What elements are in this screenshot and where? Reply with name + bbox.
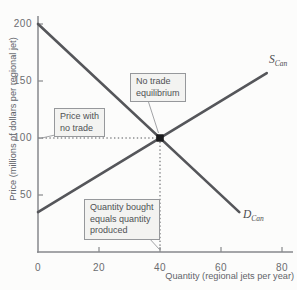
x-tick-label: 0 xyxy=(35,262,41,273)
y-tick-label: 50 xyxy=(2,189,32,200)
plot-canvas xyxy=(0,0,297,290)
demand-curve-subscript: Can xyxy=(251,214,264,223)
equilibrium-dot xyxy=(156,134,164,142)
x-tick-label: 80 xyxy=(276,262,288,273)
annotation-pointer-line xyxy=(40,135,56,139)
no-trade-equilibrium-chart: Price (millions of dollars per regional … xyxy=(0,0,297,290)
x-tick-label: 20 xyxy=(93,262,105,273)
x-tick-label: 60 xyxy=(215,262,227,273)
demand-curve-label: DCan xyxy=(243,209,264,223)
annotation-quantity-bought: Quantity bought equals quantity produced xyxy=(84,199,160,240)
supply-curve-subscript: Can xyxy=(275,59,288,68)
annotation-price-with-no-trade: Price with no trade xyxy=(54,108,105,137)
x-axis-title: Quantity (regional jets per year) xyxy=(165,271,294,281)
y-axis-title: Price (millions of dollars per regional … xyxy=(8,37,18,200)
annotation-no-trade-equilibrium: No trade equilibrium xyxy=(130,73,186,102)
x-tick-label: 40 xyxy=(154,262,166,273)
y-tick-label: 200 xyxy=(2,18,32,29)
supply-curve-label: SCan xyxy=(269,54,287,68)
y-tick-label: 100 xyxy=(2,132,32,143)
y-tick-label: 150 xyxy=(2,75,32,86)
